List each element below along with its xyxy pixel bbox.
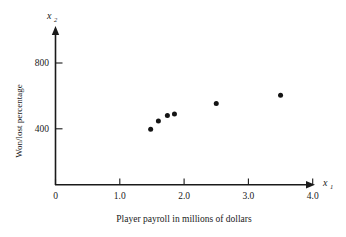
data-point bbox=[172, 112, 177, 117]
x-axis-arrow-icon bbox=[306, 181, 315, 188]
x-tick-label-1: 1.0 bbox=[114, 191, 126, 201]
chart-canvas: 0 1.0 2.0 3.0 4.0 400 800 x 2 x 1 Won/lo… bbox=[0, 0, 346, 237]
y-axis-caption-group: Won/lost percentage bbox=[14, 84, 24, 158]
scatter-plot-figure: 0 1.0 2.0 3.0 4.0 400 800 x 2 x 1 Won/lo… bbox=[0, 0, 346, 237]
data-point bbox=[156, 119, 161, 124]
x-tick-label-0: 0 bbox=[53, 191, 58, 201]
y-axis-arrow-icon bbox=[52, 26, 59, 35]
data-point bbox=[148, 127, 153, 132]
x-axis-variable-subscript: 1 bbox=[330, 183, 333, 190]
data-points-layer bbox=[148, 93, 283, 132]
x-axis bbox=[55, 181, 315, 188]
y-axis-caption: Won/lost percentage bbox=[14, 84, 24, 158]
y-axis bbox=[52, 26, 59, 185]
data-point bbox=[278, 93, 283, 98]
axis-variable-labels: x 2 x 1 bbox=[46, 10, 333, 190]
y-axis-ticks bbox=[56, 63, 63, 129]
y-tick-label-800: 800 bbox=[35, 58, 50, 68]
x-tick-label-3: 3.0 bbox=[242, 191, 254, 201]
x-tick-label-4: 4.0 bbox=[307, 191, 319, 201]
data-point bbox=[214, 101, 219, 106]
x-axis-ticks bbox=[56, 179, 313, 185]
x-tick-label-2: 2.0 bbox=[178, 191, 190, 201]
y-axis-variable-subscript: 2 bbox=[54, 16, 58, 23]
x-axis-tick-labels: 0 1.0 2.0 3.0 4.0 bbox=[53, 191, 319, 201]
data-point bbox=[165, 113, 170, 118]
y-axis-tick-labels: 400 800 bbox=[35, 58, 50, 134]
x-axis-variable: x bbox=[322, 177, 328, 188]
y-axis-variable: x bbox=[46, 10, 52, 21]
x-axis-caption: Player payroll in millions of dollars bbox=[116, 214, 252, 224]
y-tick-label-400: 400 bbox=[35, 124, 50, 134]
